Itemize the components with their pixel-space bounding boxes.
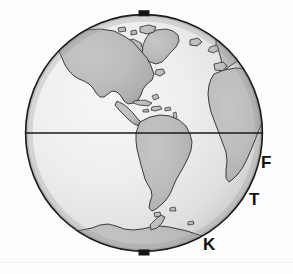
bottom-divider	[0, 262, 293, 263]
label-f: F	[261, 154, 271, 171]
label-k: K	[203, 236, 215, 253]
landmass-antarctic-islet	[74, 234, 81, 238]
landmass-falkland-islands	[170, 207, 176, 211]
north-pole-marker	[139, 10, 150, 16]
south-pole-marker	[139, 250, 150, 256]
landmass-arctic-islet-b	[131, 30, 137, 35]
landmass-arctic-islet-a	[118, 27, 126, 32]
figure-canvas: F T K	[0, 0, 293, 274]
landmass-south-georgia	[188, 221, 194, 225]
label-t: T	[249, 191, 259, 208]
globe-illustration	[0, 0, 293, 274]
landmass-puerto-rico	[165, 107, 171, 111]
globe-svg	[0, 0, 293, 274]
landmass-jamaica	[143, 109, 149, 112]
